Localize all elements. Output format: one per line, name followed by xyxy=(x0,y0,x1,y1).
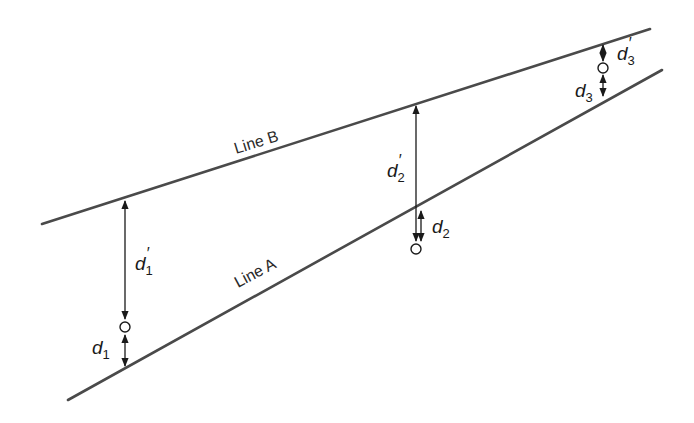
d2-label: d2 xyxy=(432,216,450,241)
diagram-canvas: Line B Line A d1′ d1 d2′ d2 d3′ d3 xyxy=(0,0,694,423)
point-2 xyxy=(411,244,421,254)
d2-prime-label: d2′ xyxy=(387,152,405,185)
line-a-label: Line A xyxy=(231,255,279,291)
point-1 xyxy=(120,322,130,332)
point-3 xyxy=(598,63,608,73)
d1-label: d1 xyxy=(92,337,110,362)
d1-prime-label: d1′ xyxy=(135,245,153,278)
line-b-label: Line B xyxy=(232,127,280,157)
diagram-svg: Line B Line A d1′ d1 d2′ d2 d3′ d3 xyxy=(0,0,694,423)
d3-label: d3 xyxy=(575,80,593,105)
